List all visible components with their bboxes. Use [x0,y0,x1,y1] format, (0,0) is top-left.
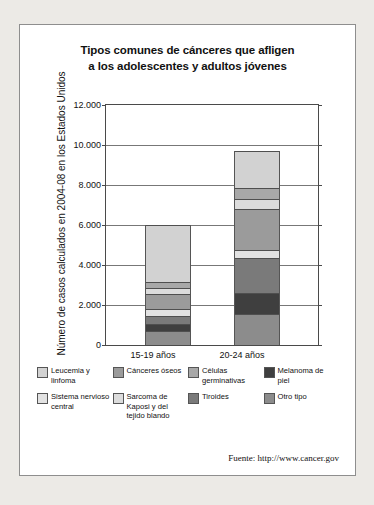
stacked-bar-15-19[interactable] [145,225,191,345]
gridline [106,305,318,306]
y-tick-label: 12.000 [73,100,101,110]
tick-mark [102,345,106,346]
tick-mark [318,185,322,186]
tick-mark [318,225,322,226]
bar-segment[interactable] [146,225,190,282]
chart-card: Tipos comunes de cánceres que afligen a … [19,24,356,476]
bar-segment[interactable] [235,250,279,258]
gridline [106,145,318,146]
page-background: Tipos comunes de cánceres que afligen a … [0,0,374,505]
legend-item[interactable]: Otro tipo [264,392,340,421]
legend-label: Melanoma de piel [278,366,337,385]
bar-segment[interactable] [235,199,279,209]
legend-row-2: Sistema nervioso centralSarcoma de Kapos… [37,392,339,421]
legend-swatch-icon [188,367,199,378]
legend-label: Sistema nervioso central [51,392,110,411]
x-axis-label-1: 20-24 años [187,350,297,360]
chart-title-line-2: a los adolescentes y adultos jóvenes [20,58,355,74]
legend-item[interactable]: Leucemia y linfoma [37,366,113,385]
bar-segment[interactable] [235,314,279,345]
gridline [106,265,318,266]
legend-label: Otro tipo [278,392,307,402]
legend-row-1: Leucemia y linfomaCánceres óseosCélulas … [37,366,339,385]
y-axis-title: Número de casos calculados en 2004-08 en… [56,106,67,356]
y-tick-label: 8.000 [78,180,101,190]
y-tick-label: 2.000 [78,300,101,310]
bar-segment[interactable] [235,293,279,314]
legend-item[interactable]: Melanoma de piel [264,366,340,385]
tick-mark [102,265,106,266]
source-note: Fuente: http://www.cancer.gov [228,453,339,463]
tick-mark [318,345,322,346]
chart-legend: Leucemia y linfomaCánceres óseosCélulas … [37,366,339,428]
legend-swatch-icon [37,367,48,378]
bar-segment[interactable] [235,188,279,199]
y-tick-label: 6.000 [78,220,101,230]
legend-item[interactable]: Tiroides [188,392,264,421]
bar-segment[interactable] [146,331,190,345]
legend-item[interactable]: Sarcoma de Kaposi y del tejido blando [113,392,189,421]
bar-segment[interactable] [235,151,279,188]
legend-swatch-icon [113,367,124,378]
plot-area: 02.0004.0006.0008.00010.00012.000 15-19 … [105,104,319,346]
bar-segment[interactable] [146,294,190,309]
chart-title-line-1: Tipos comunes de cánceres que afligen [20,42,355,58]
bar-segment[interactable] [146,316,190,324]
legend-swatch-icon [264,367,275,378]
tick-mark [102,145,106,146]
legend-swatch-icon [37,393,48,404]
tick-mark [318,145,322,146]
legend-swatch-icon [113,393,124,404]
legend-item[interactable]: Cánceres óseos [113,366,189,385]
tick-mark [102,105,106,106]
legend-swatch-icon [264,393,275,404]
legend-item[interactable]: Sistema nervioso central [37,392,113,421]
tick-mark [318,105,322,106]
tick-mark [102,305,106,306]
legend-label: Leucemia y linfoma [51,366,110,385]
bar-segment[interactable] [235,258,279,293]
legend-label: Sarcoma de Kaposi y del tejido blando [127,392,186,421]
legend-label: Cánceres óseos [127,366,182,376]
chart-title: Tipos comunes de cánceres que afligen a … [20,42,355,74]
gridline [106,185,318,186]
stacked-bar-20-24[interactable] [234,151,280,345]
gridline [106,225,318,226]
bar-segment[interactable] [146,324,190,331]
y-tick-label: 10.000 [73,140,101,150]
bar-segment[interactable] [235,209,279,250]
tick-mark [102,185,106,186]
legend-label: Células germinativas [202,366,261,385]
y-tick-label: 4.000 [78,260,101,270]
tick-mark [102,225,106,226]
legend-label: Tiroides [202,392,229,402]
y-tick-label: 0 [96,340,101,350]
tick-mark [318,305,322,306]
bar-segment[interactable] [146,309,190,316]
legend-item[interactable]: Células germinativas [188,366,264,385]
legend-swatch-icon [188,393,199,404]
tick-mark [318,265,322,266]
